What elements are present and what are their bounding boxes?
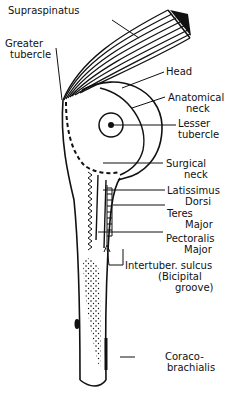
nutrient-foramen: [75, 319, 80, 329]
groove-lateral-lip: [96, 175, 98, 240]
label-surgical-neck: Surgical neck: [166, 158, 208, 180]
shaft-lateral: [62, 100, 80, 380]
deltoid-tuberosity: [83, 258, 101, 370]
label-greater-tubercle: Greater tubercle: [5, 38, 51, 60]
pectoralis-major-insertion: [88, 172, 92, 250]
shaft-medial: [106, 178, 120, 380]
label-coracobrachialis: Coraco- brachialis: [165, 351, 215, 373]
label-pectoralis-major: Pectoralis Major: [166, 233, 214, 255]
label-lesser-tubercle: Lesser tubercle: [178, 118, 219, 140]
label-teres-major: Teres Major: [167, 208, 213, 230]
label-anatomical-neck: Anatomical neck: [168, 92, 224, 114]
label-head: Head: [166, 66, 192, 77]
label-intertubercular-sulcus: Intertuber. sulcus (Bicipital groove): [125, 260, 213, 293]
label-latissimus-dorsi: Latissimus Dorsi: [167, 185, 220, 207]
label-supraspinatus: Supraspinatus: [8, 5, 80, 16]
